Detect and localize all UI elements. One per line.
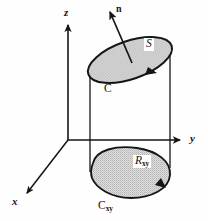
region-rxy-shape xyxy=(91,147,170,198)
stokes-theorem-diagram xyxy=(0,0,208,221)
region-rxy-label: Rxy xyxy=(133,155,151,168)
boundary-curve-label: C xyxy=(104,83,112,95)
surface-label: S xyxy=(144,38,154,51)
figure-canvas: z y x n S C Rxy Cxy xyxy=(0,0,208,221)
region-rxy-label-subscript: xy xyxy=(142,159,149,168)
projected-curve-label-subscript: xy xyxy=(106,204,113,213)
projected-curve-label-base: C xyxy=(98,199,106,211)
projected-curve-label: Cxy xyxy=(98,200,113,212)
projection-region xyxy=(91,147,170,198)
normal-vector-label: n xyxy=(116,4,122,14)
region-rxy-label-base: R xyxy=(135,154,142,166)
x-axis-line xyxy=(27,140,68,193)
x-axis-label: x xyxy=(12,196,18,207)
z-axis-label: z xyxy=(64,7,68,18)
y-axis-label: y xyxy=(190,133,195,144)
